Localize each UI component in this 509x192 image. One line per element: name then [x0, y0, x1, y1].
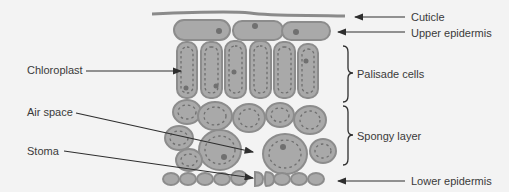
- cuticle-layer: [152, 12, 345, 16]
- label-cuticle: Cuticle: [411, 11, 445, 23]
- guard-cell-left: [255, 172, 263, 186]
- palisade-cells: [177, 41, 318, 98]
- label-palisade-cells: Palisade cells: [357, 68, 424, 80]
- label-chloroplast: Chloroplast: [27, 64, 83, 76]
- lower-epidermis-cells: [163, 171, 324, 186]
- label-stoma: Stoma: [27, 145, 59, 157]
- label-spongy-layer: Spongy layer: [357, 130, 421, 142]
- leaf-cross-section-diagram: Chloroplast Air space Stoma Cuticle Uppe…: [0, 0, 509, 192]
- spongy-brace: [343, 106, 353, 165]
- palisade-brace: [343, 46, 353, 102]
- label-lower-epidermis: Lower epidermis: [411, 175, 492, 187]
- upper-epidermis-cells: [174, 20, 330, 40]
- label-upper-epidermis: Upper epidermis: [411, 27, 492, 39]
- label-air-space: Air space: [27, 106, 73, 118]
- guard-cell-right: [265, 172, 274, 186]
